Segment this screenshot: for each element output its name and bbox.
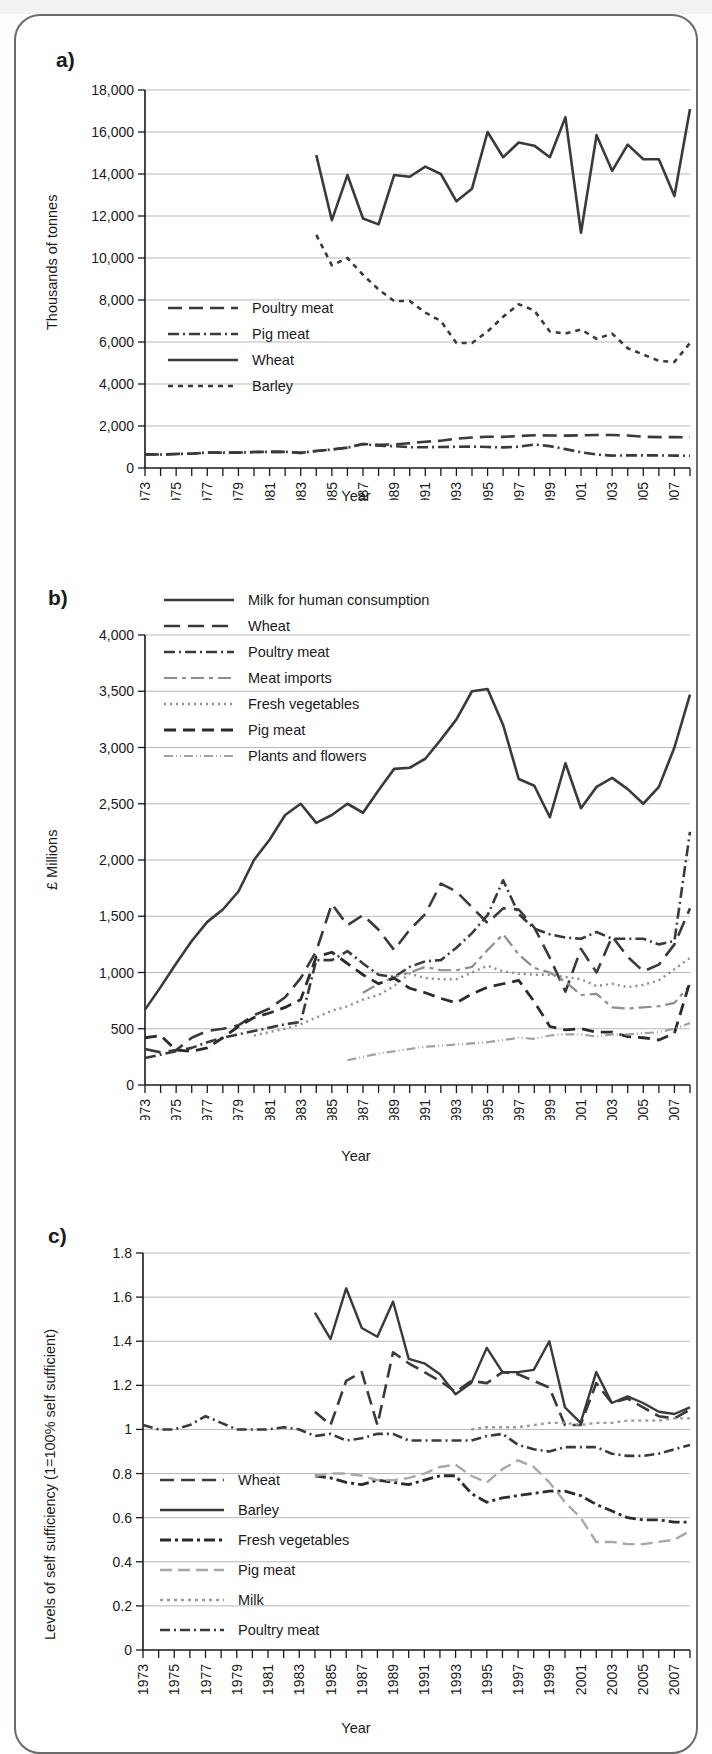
legend-label: Wheat — [252, 352, 294, 368]
x-tick-label: 2005 — [635, 1099, 651, 1120]
chart-panel-b: b) £ Millions 05001,0001,5002,0002,5003,… — [0, 560, 712, 1180]
series-line-wheat — [315, 1352, 690, 1425]
y-tick-label: 0.8 — [113, 1466, 133, 1482]
x-tick-label: 1991 — [417, 1099, 433, 1120]
chart-panel-c: c) Levels of self sufficiency (1=100% se… — [0, 1180, 712, 1729]
x-tick-label: 1995 — [479, 1664, 495, 1695]
chart-b-canvas: 05001,0001,5002,0002,5003,0003,5004,0001… — [0, 560, 712, 1120]
series-line-fresh-vegetables — [254, 958, 690, 1036]
y-tick-label: 8,000 — [99, 292, 134, 308]
x-tick-label: 1991 — [416, 1664, 432, 1695]
chart-a-canvas: 02,0004,0006,0008,00010,00012,00014,0001… — [0, 0, 712, 500]
x-tick-label: 1987 — [354, 1664, 370, 1695]
y-tick-label: 0.4 — [113, 1554, 133, 1570]
legend-label: Poultry meat — [238, 1622, 319, 1638]
panel-b-x-axis-title: Year — [0, 1148, 712, 1164]
legend-label: Poultry meat — [252, 300, 333, 316]
series-line-poultry-meat — [145, 435, 690, 455]
y-tick-label: 1.8 — [113, 1245, 133, 1261]
x-tick-label: 2003 — [604, 1664, 620, 1695]
x-tick-label: 1993 — [448, 1099, 464, 1120]
y-tick-label: 1.6 — [113, 1289, 133, 1305]
x-tick-label: 2001 — [573, 1664, 589, 1695]
panel-c-x-axis-title: Year — [0, 1720, 712, 1736]
chart-c-canvas: 00.20.40.60.811.21.41.61.819731975197719… — [0, 1180, 712, 1729]
series-line-barley — [316, 235, 690, 362]
x-tick-label: 1981 — [262, 1099, 278, 1120]
x-tick-label: 2007 — [666, 1099, 682, 1120]
x-tick-label: 1983 — [291, 1664, 307, 1695]
legend-label: Milk for human consumption — [248, 592, 429, 608]
y-tick-label: 12,000 — [91, 208, 134, 224]
x-tick-label: 1989 — [385, 1664, 401, 1695]
x-tick-label: 1981 — [260, 1664, 276, 1695]
series-line-meat-imports — [363, 934, 690, 1008]
y-tick-label: 3,500 — [99, 683, 134, 699]
y-tick-label: 18,000 — [91, 82, 134, 98]
legend-label: Wheat — [248, 618, 290, 634]
x-tick-label: 1977 — [199, 1099, 215, 1120]
y-tick-label: 3,000 — [99, 740, 134, 756]
legend-label: Pig meat — [248, 722, 305, 738]
x-tick-label: 1987 — [355, 1099, 371, 1120]
chart-panel-a: a) Thousands of tonnes 02,0004,0006,0008… — [0, 0, 712, 520]
series-line-poultry-meat — [143, 1416, 690, 1456]
x-tick-label: 1997 — [511, 1099, 527, 1120]
series-line-wheat — [145, 884, 690, 1053]
y-tick-label: 2,500 — [99, 796, 134, 812]
x-tick-label: 2005 — [635, 1664, 651, 1695]
series-line-pig-meat — [145, 444, 690, 456]
legend-label: Barley — [252, 378, 294, 394]
y-tick-label: 1 — [124, 1421, 132, 1437]
legend-label: Wheat — [238, 1472, 280, 1488]
x-tick-label: 1999 — [542, 1099, 558, 1120]
series-line-pig-meat — [315, 1460, 690, 1544]
series-line-wheat — [316, 109, 690, 233]
x-tick-label: 2007 — [666, 1664, 682, 1695]
legend-label: Meat imports — [248, 670, 332, 686]
x-tick-label: 1979 — [230, 1099, 246, 1120]
series-line-fresh-vegetables — [315, 1476, 690, 1522]
x-tick-label: 1977 — [198, 1664, 214, 1695]
y-tick-label: 16,000 — [91, 124, 134, 140]
x-tick-label: 1985 — [324, 1099, 340, 1120]
y-tick-label: 1,500 — [99, 908, 134, 924]
y-tick-label: 2,000 — [99, 852, 134, 868]
panel-a-x-axis-title: Year — [0, 488, 712, 504]
legend-label: Barley — [238, 1502, 280, 1518]
y-tick-label: 10,000 — [91, 250, 134, 266]
legend-label: Milk — [238, 1592, 265, 1608]
x-tick-label: 1979 — [229, 1664, 245, 1695]
y-tick-label: 4,000 — [99, 376, 134, 392]
x-tick-label: 1989 — [386, 1099, 402, 1120]
y-tick-label: 1,000 — [99, 965, 134, 981]
y-tick-label: 0 — [126, 1077, 134, 1093]
y-tick-label: 0 — [124, 1642, 132, 1658]
series-line-milk-for-human-consumption — [145, 689, 690, 1010]
legend-label: Plants and flowers — [248, 748, 366, 764]
x-tick-label: 1997 — [510, 1664, 526, 1695]
x-tick-label: 1995 — [480, 1099, 496, 1120]
x-tick-label: 1983 — [293, 1099, 309, 1120]
y-tick-label: 0 — [126, 460, 134, 476]
x-tick-label: 1973 — [135, 1664, 151, 1695]
x-tick-label: 1973 — [137, 1099, 153, 1120]
y-tick-label: 2,000 — [99, 418, 134, 434]
x-tick-label: 1975 — [168, 1099, 184, 1120]
x-tick-label: 2001 — [573, 1099, 589, 1120]
y-tick-label: 0.2 — [113, 1598, 133, 1614]
y-tick-label: 1.4 — [113, 1333, 133, 1349]
legend-label: Pig meat — [238, 1562, 295, 1578]
y-tick-label: 6,000 — [99, 334, 134, 350]
y-tick-label: 4,000 — [99, 627, 134, 643]
legend-label: Poultry meat — [248, 644, 329, 660]
y-tick-label: 1.2 — [113, 1377, 133, 1393]
x-tick-label: 1999 — [541, 1664, 557, 1695]
legend-label: Fresh vegetables — [248, 696, 359, 712]
x-tick-label: 1985 — [323, 1664, 339, 1695]
y-tick-label: 500 — [111, 1021, 135, 1037]
x-tick-label: 1975 — [166, 1664, 182, 1695]
y-tick-label: 0.6 — [113, 1510, 133, 1526]
x-tick-label: 2003 — [604, 1099, 620, 1120]
legend-label: Pig meat — [252, 326, 309, 342]
